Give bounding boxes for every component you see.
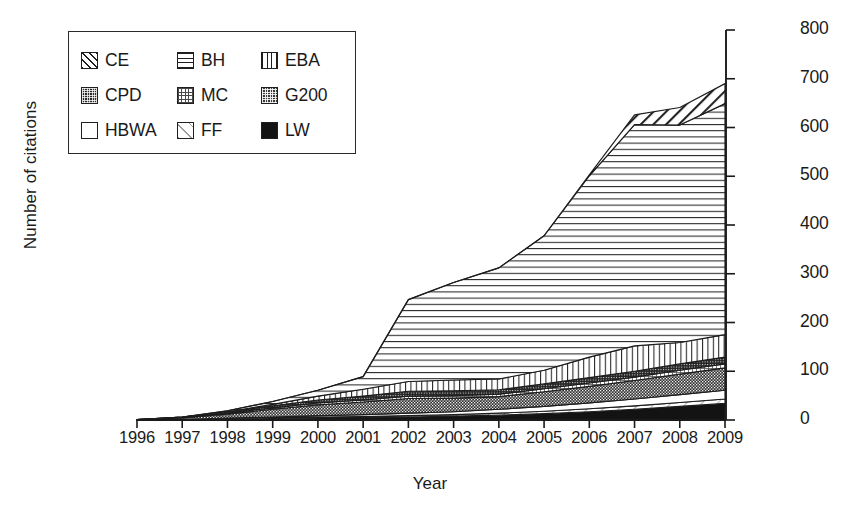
legend-label-ff: FF <box>201 120 222 141</box>
x-tick-label-2008: 2008 <box>654 428 706 447</box>
legend-item-ff[interactable]: FF <box>177 120 261 141</box>
legend-item-g200[interactable]: G200 <box>261 85 347 106</box>
legend-item-cpd[interactable]: CPD <box>81 85 177 106</box>
x-tick-label-1999: 1999 <box>247 428 299 447</box>
legend-swatch-g200-icon <box>261 87 278 104</box>
y-tick-label-500: 500 <box>800 164 829 185</box>
legend-swatch-hbwa-icon <box>81 122 98 139</box>
y-tick-label-600: 600 <box>800 116 829 137</box>
legend-swatch-cpd-icon <box>81 87 98 104</box>
legend-label-bh: BH <box>201 50 225 71</box>
x-tick-label-2001: 2001 <box>337 428 389 447</box>
x-tick-label-1996: 1996 <box>111 428 163 447</box>
chart-legend: CEBHEBACPDMCG200HBWAFFLW <box>68 31 356 154</box>
legend-item-bh[interactable]: BH <box>177 50 261 71</box>
legend-label-cpd: CPD <box>105 85 142 106</box>
legend-item-hbwa[interactable]: HBWA <box>81 120 177 141</box>
legend-label-eba: EBA <box>285 50 320 71</box>
x-tick-label-1997: 1997 <box>156 428 208 447</box>
legend-swatch-mc-icon <box>177 87 194 104</box>
x-tick-label-2005: 2005 <box>518 428 570 447</box>
x-tick-label-2006: 2006 <box>563 428 615 447</box>
legend-label-g200: G200 <box>285 85 327 106</box>
legend-swatch-ce-icon <box>81 52 98 69</box>
y-tick-label-800: 800 <box>800 18 829 39</box>
legend-label-hbwa: HBWA <box>105 120 156 141</box>
x-tick-label-2007: 2007 <box>609 428 661 447</box>
y-tick-label-700: 700 <box>800 67 829 88</box>
legend-swatch-lw-icon <box>261 122 278 139</box>
legend-item-eba[interactable]: EBA <box>261 50 347 71</box>
y-tick-label-0: 0 <box>800 408 810 429</box>
legend-label-lw: LW <box>285 120 310 141</box>
legend-label-ce: CE <box>105 50 129 71</box>
y-tick-label-200: 200 <box>800 311 829 332</box>
legend-swatch-eba-icon <box>261 52 278 69</box>
legend-swatch-ff-icon <box>177 122 194 139</box>
x-tick-label-2003: 2003 <box>428 428 480 447</box>
x-tick-label-2009: 2009 <box>699 428 751 447</box>
y-tick-label-300: 300 <box>800 262 829 283</box>
legend-swatch-bh-icon <box>177 52 194 69</box>
legend-item-mc[interactable]: MC <box>177 85 261 106</box>
x-tick-label-2000: 2000 <box>292 428 344 447</box>
legend-grid: CEBHEBACPDMCG200HBWAFFLW <box>81 43 347 148</box>
x-tick-label-2002: 2002 <box>382 428 434 447</box>
legend-label-mc: MC <box>201 85 228 106</box>
y-tick-label-100: 100 <box>800 359 829 380</box>
x-tick-label-2004: 2004 <box>473 428 525 447</box>
citation-area-chart-figure: Number of citations Year <box>0 0 864 518</box>
y-tick-label-400: 400 <box>800 213 829 234</box>
legend-item-ce[interactable]: CE <box>81 50 177 71</box>
legend-item-lw[interactable]: LW <box>261 120 347 141</box>
x-tick-label-1998: 1998 <box>201 428 253 447</box>
